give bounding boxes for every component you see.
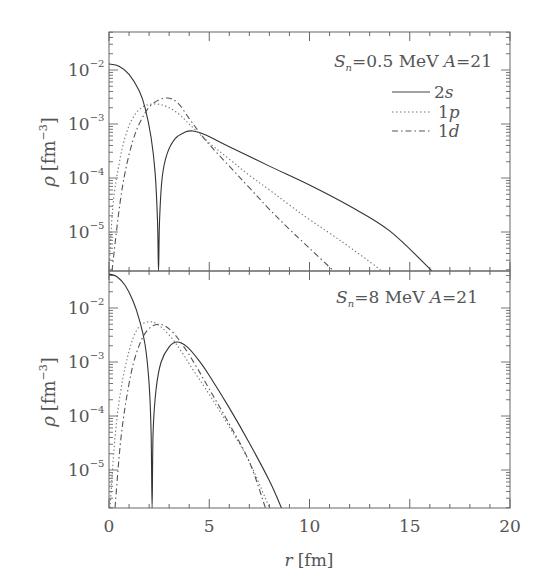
x-tick-label: 10 (299, 516, 321, 536)
y-tick-label: 10−3 (68, 112, 104, 134)
y-tick-label: 10−3 (68, 350, 104, 372)
svg-text:1p: 1p (438, 102, 460, 122)
y-tick-label: 10−5 (68, 458, 104, 480)
annotation-top: Sn=0.5 MeV A=21 (334, 51, 492, 73)
svg-text:1d: 1d (438, 121, 460, 141)
y-axis-label-top: ρ[fm−3] (37, 117, 59, 188)
density-chart: 10−210−310−410−5 10−210−310−410−50510152… (0, 0, 541, 587)
y-tick-label: 10−2 (68, 296, 104, 318)
bottom-panel: 10−210−310−410−505101520 (68, 271, 521, 536)
y-tick-label: 10−2 (68, 58, 104, 80)
series-2s-line (109, 64, 432, 271)
series-1d-line (115, 324, 265, 508)
annotation-bottom: Sn=8 MeV A=21 (336, 287, 478, 309)
x-tick-label: 5 (204, 516, 215, 536)
y-axis-label-bottom: ρ[fm−3] (37, 357, 59, 428)
legend: 2s 1p 1d (392, 82, 460, 141)
x-tick-label: 0 (104, 516, 115, 536)
y-tick-label: 10−4 (68, 166, 104, 188)
legend-item-1p: 1p (392, 102, 460, 122)
series-2s-line (109, 274, 281, 508)
svg-text:2s: 2s (434, 82, 454, 102)
y-tick-label: 10−4 (68, 404, 104, 426)
x-axis-label: r[fm] (285, 550, 334, 570)
x-tick-label: 20 (499, 516, 521, 536)
legend-item-1d: 1d (392, 121, 460, 141)
y-tick-label: 10−5 (68, 220, 104, 242)
series-1d-line (112, 98, 334, 271)
x-tick-label: 15 (399, 516, 421, 536)
legend-item-2s: 2s (392, 82, 454, 102)
